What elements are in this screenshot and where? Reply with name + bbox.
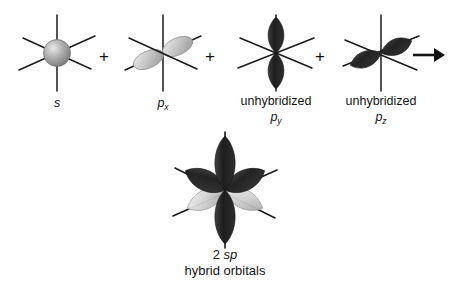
orbital-px-label: px [118, 96, 208, 111]
plus-operator-1: + [99, 48, 109, 65]
orbital-s-label: s [12, 96, 102, 111]
orbital-py-label: py [233, 110, 319, 125]
hybrid-label-line2: hybrid orbitals [145, 263, 305, 278]
orbital-py-subscript: y [277, 116, 281, 126]
orbital-sp-hybrid: 2 sp hybrid orbitals [155, 130, 295, 252]
hybrid-label-sp: sp [224, 247, 238, 262]
orbital-hybridization-figure: s + px [0, 0, 450, 287]
arrow-right-icon [412, 44, 446, 66]
yields-arrow [412, 44, 446, 66]
orbital-pz-label: pz [338, 110, 424, 125]
orbital-px-subscript: x [164, 102, 168, 112]
plus-operator-2: + [205, 48, 215, 65]
orbital-pz-top-label: unhybridized [329, 94, 433, 109]
orbital-px: px [118, 12, 208, 94]
px-orbital-graphic [118, 12, 208, 94]
orbital-s: s [12, 12, 102, 94]
orbital-pz-subscript: z [382, 116, 386, 126]
orbital-py-top-label: unhybridized [224, 94, 328, 109]
hybrid-label-line1: 2 sp [155, 247, 295, 262]
py-orbital-graphic [233, 12, 319, 94]
plus-operator-3: + [315, 48, 325, 65]
orbital-py: unhybridized py [233, 12, 319, 94]
sp-hybrid-orbital-graphic [155, 130, 295, 252]
s-orbital-graphic [12, 12, 102, 94]
